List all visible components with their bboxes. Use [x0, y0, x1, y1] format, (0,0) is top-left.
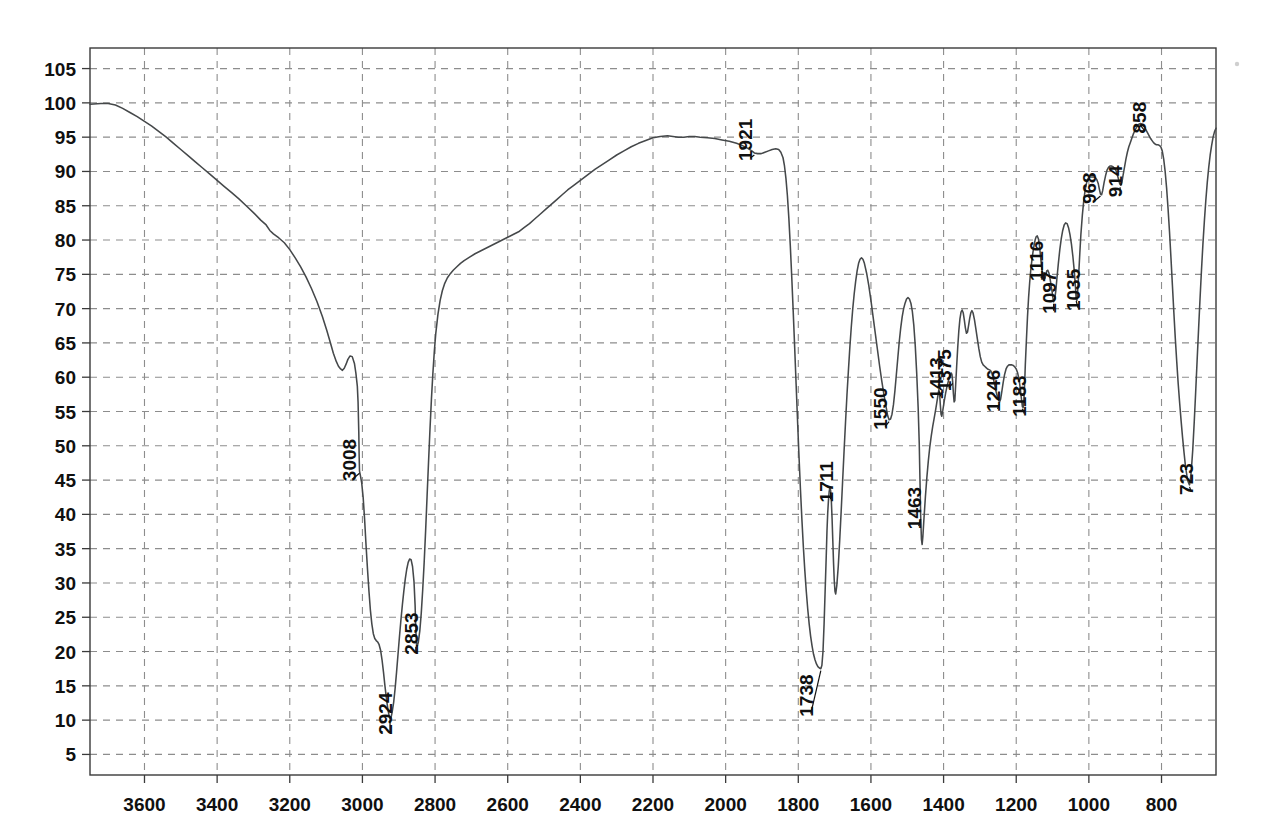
- y-tick-label: 15: [55, 676, 77, 697]
- spectrum-plot: 5101520253035404550556065707580859095100…: [0, 0, 1268, 835]
- peak-label-723: 723: [1176, 463, 1197, 495]
- x-tick-label: 2800: [414, 794, 456, 815]
- peak-label-858: 858: [1129, 102, 1150, 134]
- x-tick-label: 2200: [632, 794, 674, 815]
- peak-label-3008: 3008: [339, 439, 360, 481]
- x-tick-label: 800: [1146, 794, 1178, 815]
- x-tick-label: 3400: [196, 794, 238, 815]
- peak-label-914: 914: [1105, 165, 1126, 197]
- y-tick-label: 5: [65, 744, 76, 765]
- y-tick-label: 70: [55, 299, 76, 320]
- peak-label-1035: 1035: [1063, 268, 1084, 311]
- peak-label-1183: 1183: [1009, 375, 1030, 416]
- y-tick-label: 75: [55, 264, 77, 285]
- peak-label-2853: 2853: [401, 612, 422, 654]
- y-tick-label: 85: [55, 196, 77, 217]
- x-tick-label: 3000: [341, 794, 383, 815]
- x-tick-label: 2000: [705, 794, 747, 815]
- peak-label-968: 968: [1079, 172, 1100, 204]
- y-tick-label: 10: [55, 710, 76, 731]
- y-tick-label: 35: [55, 539, 77, 560]
- x-tick-label: 2400: [559, 794, 601, 815]
- x-tick-label: 2600: [487, 794, 529, 815]
- scan-speck: [1235, 62, 1239, 66]
- y-tick-label: 45: [55, 470, 77, 491]
- x-tick-label: 3200: [269, 794, 311, 815]
- y-tick-label: 95: [55, 127, 77, 148]
- peak-label-1463: 1463: [904, 487, 925, 529]
- peak-label-1246: 1246: [983, 370, 1004, 412]
- y-tick-label: 65: [55, 333, 77, 354]
- peak-label-1550: 1550: [870, 387, 891, 429]
- y-tick-label: 60: [55, 367, 76, 388]
- x-tick-label: 1400: [922, 794, 964, 815]
- ir-spectrum-chart: 5101520253035404550556065707580859095100…: [0, 0, 1268, 835]
- x-tick-label: 3600: [123, 794, 165, 815]
- x-tick-label: 1800: [777, 794, 819, 815]
- peak-label-1738: 1738: [796, 674, 817, 716]
- x-tick-label: 1600: [850, 794, 892, 815]
- y-tick-label: 25: [55, 607, 77, 628]
- chart-background: [0, 0, 1268, 835]
- peak-label-1097: 1097: [1039, 271, 1060, 313]
- peak-label-2924: 2924: [375, 692, 396, 735]
- y-tick-label: 100: [44, 93, 76, 114]
- x-tick-label: 1000: [1068, 794, 1110, 815]
- peak-label-1375: 1375: [934, 349, 955, 392]
- y-tick-label: 20: [55, 642, 76, 663]
- y-tick-label: 105: [44, 59, 76, 80]
- peak-label-1921: 1921: [735, 118, 756, 161]
- y-tick-label: 80: [55, 230, 76, 251]
- y-tick-label: 40: [55, 504, 76, 525]
- y-tick-label: 50: [55, 436, 76, 457]
- y-tick-label: 30: [55, 573, 76, 594]
- peak-label-1711: 1711: [816, 461, 837, 503]
- y-tick-label: 55: [55, 402, 77, 423]
- x-tick-label: 1200: [995, 794, 1037, 815]
- y-tick-label: 90: [55, 161, 76, 182]
